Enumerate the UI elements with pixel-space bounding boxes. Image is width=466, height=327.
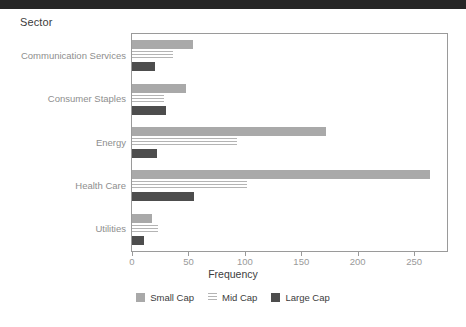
bar-mid[interactable]	[132, 181, 247, 190]
bar-small[interactable]	[132, 40, 193, 49]
legend-item[interactable]: Large Cap	[271, 292, 329, 303]
legend-item[interactable]: Small Cap	[136, 292, 194, 303]
bar-small[interactable]	[132, 127, 326, 136]
bar-group	[132, 164, 448, 207]
legend-label: Mid Cap	[222, 292, 257, 303]
y-axis-label-4: Utilities	[0, 223, 126, 234]
bar-small[interactable]	[132, 170, 430, 179]
bar-group	[132, 77, 448, 120]
legend-swatch-mid	[208, 293, 217, 302]
x-axis-label: Frequency	[0, 268, 466, 280]
y-axis-label-3: Health Care	[0, 180, 126, 191]
x-tick-label: 150	[293, 256, 309, 267]
x-tick-label: 50	[183, 256, 194, 267]
bar-mid[interactable]	[132, 138, 237, 147]
bar-large[interactable]	[132, 236, 144, 245]
bar-large[interactable]	[132, 62, 155, 71]
legend-item[interactable]: Mid Cap	[208, 292, 257, 303]
chart-container: Communication ServicesConsumer StaplesEn…	[0, 0, 466, 327]
bar-group	[132, 121, 448, 164]
bar-group	[132, 34, 448, 77]
chart-legend: Small CapMid CapLarge Cap	[0, 292, 466, 303]
y-axis-label-2: Energy	[0, 137, 126, 148]
bar-large[interactable]	[132, 192, 194, 201]
bar-mid[interactable]	[132, 51, 173, 60]
bar-small[interactable]	[132, 84, 186, 93]
bars-layer	[132, 34, 448, 251]
bar-small[interactable]	[132, 214, 152, 223]
bar-large[interactable]	[132, 149, 157, 158]
y-axis-label-1: Consumer Staples	[0, 93, 126, 104]
legend-label: Small Cap	[150, 292, 194, 303]
bar-large[interactable]	[132, 106, 166, 115]
x-tick-label: 200	[350, 256, 366, 267]
legend-swatch-small	[136, 293, 145, 302]
bar-mid[interactable]	[132, 225, 158, 234]
y-axis-category-labels: Communication ServicesConsumer StaplesEn…	[0, 34, 126, 251]
bar-group	[132, 208, 448, 251]
legend-label: Large Cap	[285, 292, 329, 303]
bar-mid[interactable]	[132, 95, 164, 104]
x-tick-label: 100	[237, 256, 253, 267]
x-tick-label: 250	[406, 256, 422, 267]
y-axis-label-0: Communication Services	[0, 50, 126, 61]
legend-swatch-large	[271, 293, 280, 302]
x-tick-label: 0	[129, 256, 134, 267]
